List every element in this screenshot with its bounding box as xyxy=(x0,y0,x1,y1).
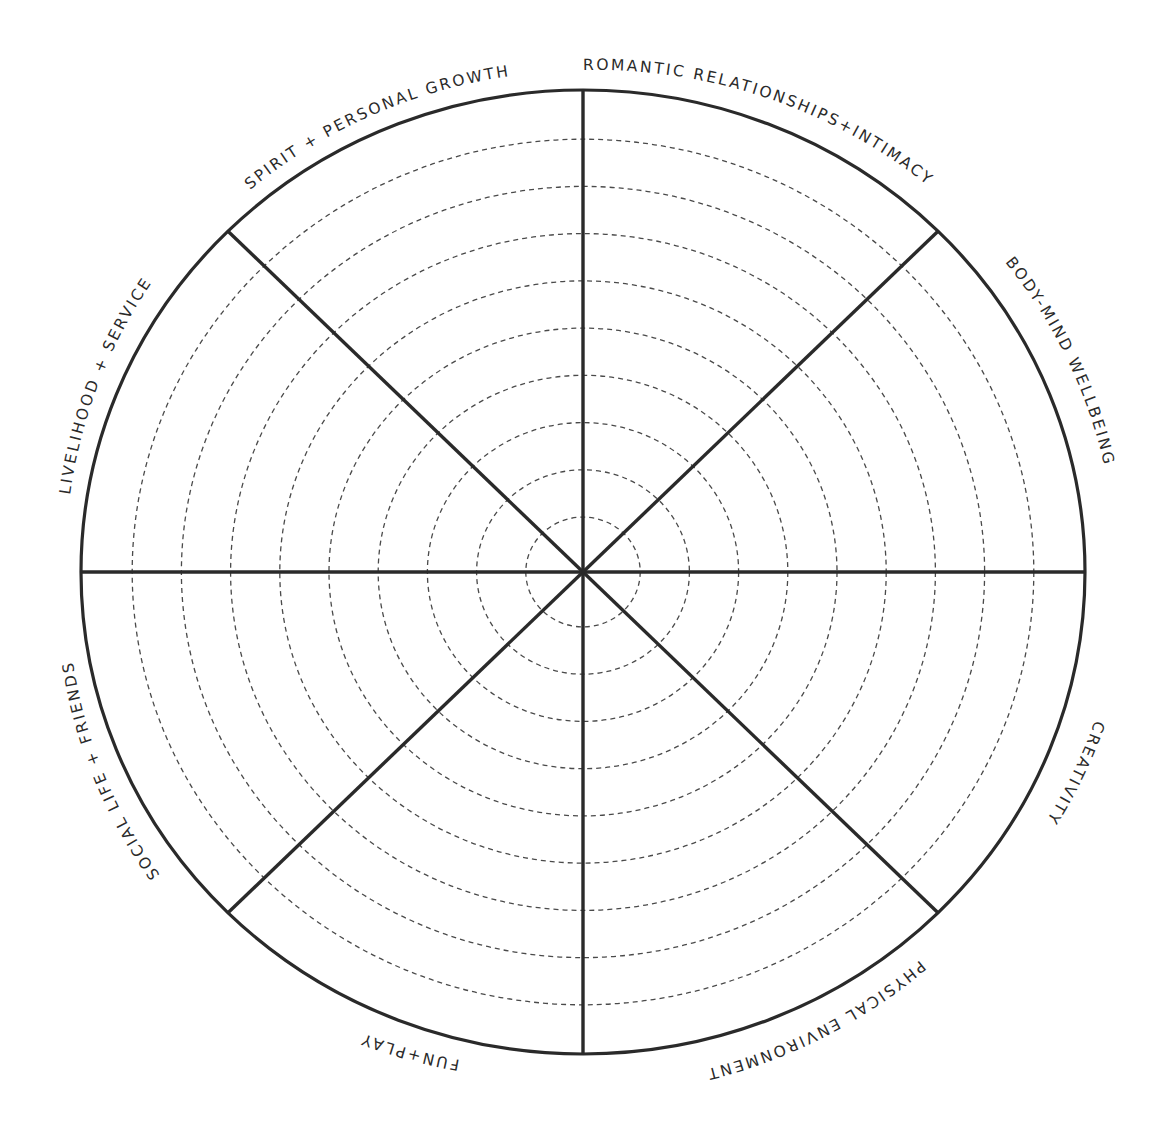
label-creativity: CREATIVITY xyxy=(1042,719,1108,829)
label-livelihood-service: LIVELIHOOD + SERVICE xyxy=(56,273,156,495)
label-physical-environment: PHYSICAL ENVIRONMENT xyxy=(704,957,929,1083)
label-body-mind-wellbeing: BODY-MIND WELLBEING xyxy=(1002,253,1118,468)
segment-divider-8 xyxy=(583,231,938,572)
segment-divider-6 xyxy=(228,231,583,572)
segment-dividers xyxy=(81,90,1085,1054)
label-social-life-friends: SOCIAL LIFE + FRIENDS xyxy=(59,659,164,883)
label-spirit-personal-growth: SPIRIT + PERSONAL GROWTH xyxy=(241,62,511,193)
segment-divider-4 xyxy=(228,572,583,913)
segment-divider-2 xyxy=(583,572,938,913)
wheel-of-life-diagram: SPIRIT + PERSONAL GROWTH ROMANTIC RELATI… xyxy=(0,0,1172,1123)
